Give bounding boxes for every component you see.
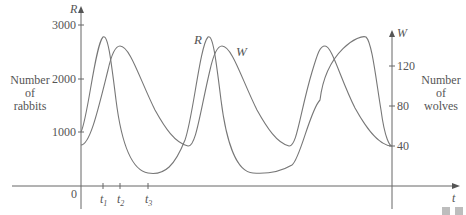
wolves-side-label: Number of wolves <box>418 74 464 113</box>
t3-label: t3 <box>145 192 152 208</box>
rabbits-label-line: rabbits <box>4 100 56 113</box>
r-tick-label: 3000 <box>52 18 76 32</box>
t2-label: t2 <box>117 192 124 208</box>
curve-label-w: W <box>236 44 248 59</box>
rabbits-side-label: Number of rabbits <box>4 74 56 113</box>
w-axis-label: W <box>397 26 408 40</box>
t-axis-arrow-icon <box>452 183 460 189</box>
t-axis-label: t <box>452 191 456 205</box>
r-tick-label: 1000 <box>52 125 76 139</box>
wolves-label-line: wolves <box>418 100 464 113</box>
curve-label-r: R <box>193 32 202 47</box>
r-axis-arrow-icon <box>78 6 84 13</box>
t1-label: t1 <box>100 192 107 208</box>
r-axis-label: R <box>69 2 78 16</box>
w-tick-label: 40 <box>397 139 409 153</box>
decorative-square <box>442 207 450 215</box>
w-axis-arrow-icon <box>389 30 395 37</box>
w-tick-label: 80 <box>397 99 409 113</box>
predator-prey-chart: 3000 2000 1000 R 120 80 40 W t1 t2 t3 0 … <box>0 0 466 215</box>
w-tick-label: 120 <box>397 59 415 73</box>
origin-label: 0 <box>71 187 77 201</box>
decorative-square <box>455 207 463 215</box>
wolf-curve <box>81 46 392 146</box>
